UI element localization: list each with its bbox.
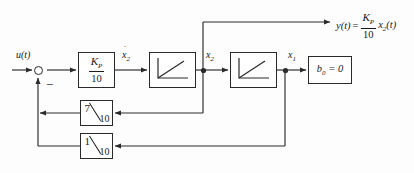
integrator-ramp-icon bbox=[234, 56, 273, 84]
gain-kp-fraction: KP 10 bbox=[89, 56, 105, 85]
output-gain-denominator: 10 bbox=[361, 30, 376, 41]
feedback-7-10-fraction: 7 10 bbox=[83, 102, 111, 124]
output-state-term: x2(t) bbox=[378, 20, 396, 33]
output-equals: = bbox=[353, 21, 359, 32]
gain-kp-numerator: KP bbox=[89, 56, 105, 70]
b0-label: b0 = 0 bbox=[317, 63, 343, 77]
summing-junction[interactable] bbox=[34, 66, 43, 75]
signal-label-x2-dot: ˙ x2 bbox=[122, 50, 130, 63]
integrator-ramp-icon bbox=[153, 56, 192, 84]
gain-block-kp[interactable]: KP 10 bbox=[78, 52, 115, 88]
output-y-label: y(t) bbox=[336, 21, 351, 32]
integrator-block-1[interactable] bbox=[149, 52, 196, 88]
input-signal-label: u(t) bbox=[16, 50, 30, 60]
block-diagram-canvas: − u(t) KP 10 ˙ x2 x2 bbox=[0, 0, 414, 173]
output-gain-block-b0[interactable]: b0 = 0 bbox=[308, 56, 352, 84]
feedback-1-10-denominator: 10 bbox=[100, 146, 110, 157]
signal-label-x1: x1 bbox=[288, 50, 296, 63]
output-equation: y(t) = KP 10 x2(t) bbox=[336, 12, 396, 41]
gain-kp-denominator: 10 bbox=[89, 74, 104, 85]
feedback-7-10-denominator: 10 bbox=[100, 113, 110, 124]
branch-node-x1 bbox=[281, 66, 290, 75]
integrator-block-2[interactable] bbox=[230, 52, 277, 88]
branch-node-x2 bbox=[199, 66, 208, 75]
dot-accent: ˙ bbox=[124, 45, 127, 54]
signal-label-x2: x2 bbox=[206, 50, 214, 63]
output-gain-numerator: KP bbox=[361, 12, 377, 26]
feedback-gain-block-1-10[interactable]: 1 10 bbox=[80, 133, 113, 159]
feedback-gain-block-7-10[interactable]: 7 10 bbox=[80, 100, 113, 126]
output-gain-fraction: KP 10 bbox=[361, 12, 377, 41]
feedback-1-10-fraction: 1 10 bbox=[83, 135, 111, 157]
summing-junction-minus-sign: − bbox=[46, 77, 53, 93]
